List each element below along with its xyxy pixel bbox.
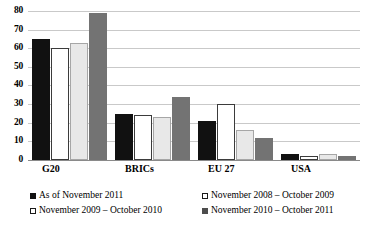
legend-item-1[interactable]: November 2008 – October 2009 <box>202 190 334 201</box>
bar-g20-series-1[interactable] <box>51 48 69 160</box>
legend-label-0: As of November 2011 <box>39 190 123 201</box>
y-tick-20: 20 <box>14 118 23 128</box>
legend-item-3[interactable]: November 2010 – October 2011 <box>202 205 334 216</box>
y-axis: 80 70 60 50 40 30 20 10 0 <box>0 0 26 178</box>
bar-eu27-series-2[interactable] <box>236 130 254 160</box>
x-axis-labels: G20 BRICs EU 27 USA <box>28 162 360 178</box>
bar-g20-series-3[interactable] <box>89 13 107 160</box>
bar-brics-series-0[interactable] <box>115 114 133 161</box>
bar-groups <box>28 0 360 160</box>
bar-group-g20 <box>28 0 111 160</box>
legend-swatch-icon-2 <box>30 208 36 214</box>
y-tick-40: 40 <box>14 81 23 91</box>
y-tick-80: 80 <box>14 6 23 16</box>
bar-group-brics <box>111 0 194 160</box>
bar-eu27-series-3[interactable] <box>255 138 273 160</box>
bar-usa-series-2[interactable] <box>319 154 337 160</box>
y-tick-60: 60 <box>14 43 23 53</box>
y-tick-0: 0 <box>18 155 23 165</box>
bar-group-eu27 <box>194 0 277 160</box>
bar-eu27-series-0[interactable] <box>198 121 216 160</box>
category-label-brics: BRICs <box>111 162 194 178</box>
legend-label-3: November 2010 – October 2011 <box>211 205 334 216</box>
y-tick-10: 10 <box>14 136 23 146</box>
bar-chart: 80 70 60 50 40 30 20 10 0 <box>0 0 372 225</box>
bar-brics-series-3[interactable] <box>172 97 190 160</box>
legend-swatch-icon-1 <box>202 193 208 199</box>
category-label-eu27: EU 27 <box>194 162 277 178</box>
bar-g20-series-2[interactable] <box>70 43 88 160</box>
category-label-usa: USA <box>277 162 360 178</box>
y-tick-50: 50 <box>14 62 23 72</box>
bar-eu27-series-1[interactable] <box>217 104 235 160</box>
legend-item-2[interactable]: November 2009 – October 2010 <box>30 205 162 216</box>
legend-label-2: November 2009 – October 2010 <box>39 205 162 216</box>
bar-brics-series-2[interactable] <box>153 117 171 160</box>
legend-swatch-icon-3 <box>202 208 208 214</box>
bar-usa-series-3[interactable] <box>338 156 356 160</box>
bar-group-usa <box>277 0 360 160</box>
y-tick-70: 70 <box>14 25 23 35</box>
bar-brics-series-1[interactable] <box>134 115 152 160</box>
y-tick-30: 30 <box>14 99 23 109</box>
bar-g20-series-0[interactable] <box>32 39 50 160</box>
bar-usa-series-0[interactable] <box>281 154 299 160</box>
plot-area: 80 70 60 50 40 30 20 10 0 <box>0 0 372 178</box>
legend-label-1: November 2008 – October 2009 <box>211 190 334 201</box>
legend-item-0[interactable]: As of November 2011 <box>30 190 123 201</box>
legend-swatch-icon-0 <box>30 193 36 199</box>
chart-legend: As of November 2011 November 2008 – Octo… <box>0 190 372 224</box>
category-label-g20: G20 <box>28 162 111 178</box>
bar-usa-series-1[interactable] <box>300 156 318 160</box>
